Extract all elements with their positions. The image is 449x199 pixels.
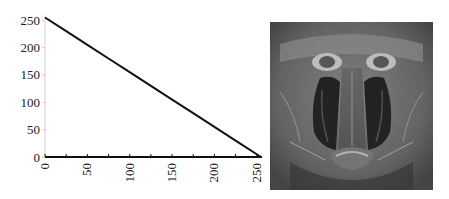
y-tick-label: 200: [21, 40, 41, 55]
x-tick-label: 50: [79, 163, 94, 176]
y-tick-label: 100: [21, 95, 41, 110]
x-tick-label: 150: [164, 163, 179, 183]
y-tick-labels: 050100150200250: [21, 13, 41, 165]
x-tick-labels: 050100150200250: [37, 163, 264, 183]
mandrill-svg: [270, 22, 433, 190]
y-tick-label: 0: [34, 150, 41, 165]
x-tick-label: 200: [206, 163, 221, 183]
y-tick-label: 250: [21, 13, 41, 28]
x-tick-label: 100: [122, 163, 137, 183]
chart-svg: 050100150200250 050100150200250: [0, 0, 268, 199]
intensity-transform-chart: 050100150200250 050100150200250: [0, 0, 268, 199]
y-tick-label: 150: [21, 67, 41, 82]
x-tick-label: 250: [249, 163, 264, 183]
y-tick-label: 50: [27, 122, 40, 137]
data-line: [45, 18, 261, 158]
mandrill-image: [270, 22, 433, 190]
